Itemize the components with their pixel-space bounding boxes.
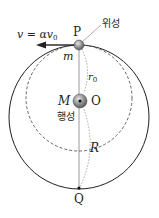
radius-r0-arc <box>82 49 88 93</box>
satellite-icon <box>74 40 84 50</box>
point-p-label: P <box>73 25 81 39</box>
planet-center-dot <box>78 99 81 102</box>
velocity-arrowhead <box>36 42 46 49</box>
satellite-leader-line <box>82 25 101 42</box>
radius-R-arc <box>80 109 90 187</box>
planet-label: 행성 <box>57 111 75 122</box>
point-q-label: Q <box>74 192 84 206</box>
velocity-label: v = αv0 <box>17 28 58 42</box>
planet-mass-label: M <box>57 94 71 108</box>
satellite-mass-label: m <box>63 50 73 63</box>
satellite-label: 위성 <box>102 17 120 29</box>
radius-R-label: R <box>89 141 99 155</box>
orbit-diagram: v = αv0 P 위성 m r0 M O 행성 R Q <box>0 0 159 218</box>
point-q-dot <box>77 186 80 189</box>
radius-r0-label: r0 <box>88 71 97 84</box>
center-o-label: O <box>91 94 101 108</box>
